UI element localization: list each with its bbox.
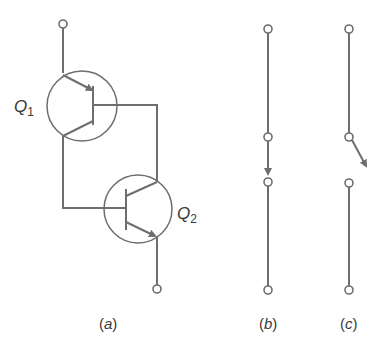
- panel-b-closed-switch: (b): [259, 25, 277, 332]
- c-bottom-terminal: [345, 286, 353, 294]
- anode-terminal: [59, 20, 67, 28]
- cathode-terminal: [153, 285, 161, 293]
- panel-a-latch-circuit: Q1 Q2 (a): [14, 20, 197, 332]
- q1-collector-lead: [63, 121, 93, 136]
- circuit-diagram: Q1 Q2 (a) (b) (c): [0, 0, 380, 350]
- b-switch-lower-contact: [264, 178, 272, 186]
- c-switch-lower-contact: [345, 179, 353, 187]
- q1-label: Q1: [14, 97, 34, 119]
- transistor-q1: [47, 71, 157, 141]
- q1-emitter-arrow-icon: [63, 75, 92, 90]
- caption-c: (c): [340, 315, 358, 332]
- q2-label: Q2: [177, 204, 197, 226]
- q2-emitter-arrow-icon: [126, 222, 155, 236]
- b-bottom-terminal: [264, 286, 272, 294]
- caption-a: (a): [99, 315, 117, 332]
- b-top-terminal: [264, 25, 272, 33]
- panel-c-open-switch: (c): [340, 25, 366, 332]
- q1-collector-to-q2-base-wire: [63, 136, 126, 208]
- caption-b: (b): [259, 315, 277, 332]
- b-switch-upper-contact: [264, 133, 272, 141]
- q2-collector-lead: [126, 182, 157, 196]
- c-top-terminal: [345, 25, 353, 33]
- c-switch-upper-contact: [345, 133, 353, 141]
- c-switch-arrow-icon: [352, 140, 366, 166]
